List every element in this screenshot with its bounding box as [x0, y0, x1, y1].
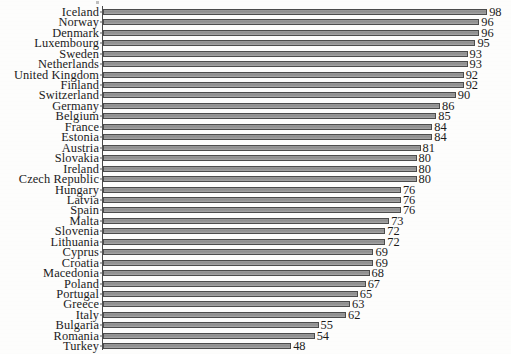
bar — [103, 30, 479, 36]
bar — [103, 124, 432, 130]
bar — [103, 218, 389, 224]
bar-value-label: 48 — [291, 340, 305, 352]
bar — [103, 82, 464, 88]
bar — [103, 51, 468, 57]
bar — [103, 239, 385, 245]
bar — [103, 145, 421, 151]
bar — [103, 134, 432, 140]
bar — [103, 103, 440, 109]
bar — [103, 281, 366, 287]
bar — [103, 322, 319, 328]
bar — [103, 260, 373, 266]
bar — [103, 291, 358, 297]
bar — [103, 343, 291, 349]
bar — [103, 61, 468, 67]
category-label: Turkey — [63, 340, 99, 352]
bar — [103, 207, 401, 213]
bar — [103, 40, 475, 46]
bar-chart: Iceland98Norway96Denmark96Luxembourg95Sw… — [0, 0, 511, 354]
bar — [103, 197, 401, 203]
bar — [103, 92, 456, 98]
bar — [103, 301, 350, 307]
bar — [103, 19, 479, 25]
bar — [103, 176, 417, 182]
bar — [103, 9, 487, 15]
bar — [103, 72, 464, 78]
bar — [103, 187, 401, 193]
bar — [103, 270, 370, 276]
bar — [103, 166, 417, 172]
bar — [103, 228, 385, 234]
plot-area: Iceland98Norway96Denmark96Luxembourg95Sw… — [0, 0, 511, 354]
bar — [103, 249, 373, 255]
bar — [103, 333, 315, 339]
bar — [103, 155, 417, 161]
bar — [103, 113, 436, 119]
bar-row: Turkey48 — [0, 341, 511, 352]
bar — [103, 312, 346, 318]
